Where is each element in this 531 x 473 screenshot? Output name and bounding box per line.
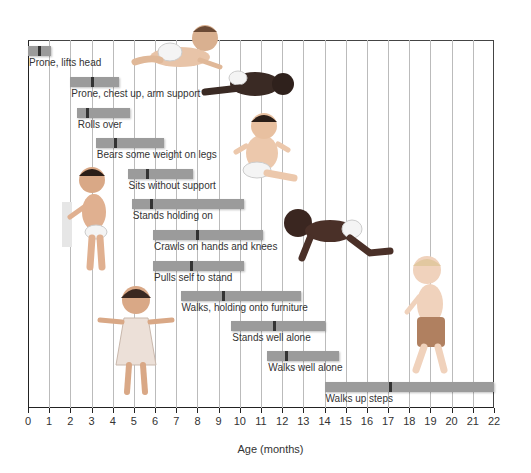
median-marker <box>150 199 153 209</box>
x-tick-label: 6 <box>145 415 165 427</box>
x-tick-label: 12 <box>272 415 292 427</box>
milestone-label: Walks up steps <box>326 393 393 404</box>
milestone-range-bar <box>132 199 244 209</box>
x-tick <box>494 408 495 413</box>
milestone-label: Bears some weight on legs <box>97 149 217 160</box>
milestone-range-bar <box>325 382 494 392</box>
x-tick-label: 22 <box>484 415 504 427</box>
motor-milestones-chart: Prone, lifts headProne, chest up, arm su… <box>0 0 531 473</box>
x-tick-label: 16 <box>357 415 377 427</box>
median-marker <box>273 321 276 331</box>
median-marker <box>222 291 225 301</box>
milestone-range-bar <box>153 261 244 271</box>
x-tick-label: 2 <box>60 415 80 427</box>
milestone-range-bar <box>70 77 119 87</box>
x-tick-label: 10 <box>230 415 250 427</box>
x-tick <box>219 408 220 413</box>
median-marker <box>285 351 288 361</box>
milestone-range-bar <box>153 230 263 240</box>
milestone-label: Crawls on hands and knees <box>154 241 277 252</box>
milestone-range-bar <box>231 321 324 331</box>
x-tick <box>473 408 474 413</box>
median-marker <box>389 382 392 392</box>
x-tick <box>92 408 93 413</box>
x-tick <box>303 408 304 413</box>
x-tick-label: 18 <box>399 415 419 427</box>
milestone-label: Sits without support <box>129 180 216 191</box>
x-tick <box>388 408 389 413</box>
milestone-range-bar <box>181 291 302 301</box>
milestone-label: Rolls over <box>78 119 122 130</box>
x-tick <box>113 408 114 413</box>
x-axis-label: Age (months) <box>0 443 531 455</box>
x-tick-label: 1 <box>39 415 59 427</box>
median-marker <box>38 46 41 56</box>
milestone-range-bar <box>77 108 130 118</box>
median-marker <box>114 138 117 148</box>
median-marker <box>196 230 199 240</box>
x-tick <box>70 408 71 413</box>
milestone-range-bar <box>28 46 51 56</box>
x-tick <box>325 408 326 413</box>
x-tick-label: 14 <box>315 415 335 427</box>
toddler-walking-illustration <box>402 252 462 377</box>
x-tick-label: 21 <box>463 415 483 427</box>
milestone-range-bar <box>96 138 164 148</box>
median-marker <box>190 261 193 271</box>
x-tick-label: 20 <box>442 415 462 427</box>
x-tick-label: 0 <box>18 415 38 427</box>
x-tick-label: 3 <box>82 415 102 427</box>
grid-line <box>49 40 50 408</box>
x-tick-label: 9 <box>209 415 229 427</box>
milestone-label: Prone, lifts head <box>29 57 101 68</box>
x-tick <box>430 408 431 413</box>
x-tick <box>28 408 29 413</box>
median-marker <box>146 169 149 179</box>
x-tick <box>176 408 177 413</box>
x-tick-label: 8 <box>187 415 207 427</box>
x-tick <box>346 408 347 413</box>
milestone-label: Stands well alone <box>232 332 310 343</box>
toddler-standing-alone-illustration <box>96 280 176 400</box>
x-tick-label: 5 <box>124 415 144 427</box>
x-tick <box>134 408 135 413</box>
x-tick-label: 13 <box>293 415 313 427</box>
x-tick <box>49 408 50 413</box>
milestone-label: Pulls self to stand <box>154 272 232 283</box>
milestone-label: Prone, chest up, arm support <box>71 88 200 99</box>
median-marker <box>86 108 89 118</box>
grid-line <box>473 40 474 408</box>
x-tick <box>409 408 410 413</box>
x-tick-label: 4 <box>103 415 123 427</box>
milestone-label: Walks well alone <box>268 362 342 373</box>
x-tick <box>452 408 453 413</box>
milestone-range-bar <box>267 351 339 361</box>
baby-crawling-illustration <box>280 203 395 265</box>
median-marker <box>91 77 94 87</box>
x-tick-label: 15 <box>336 415 356 427</box>
x-tick <box>261 408 262 413</box>
baby-prone-chest-up-illustration <box>200 62 300 107</box>
x-tick <box>282 408 283 413</box>
baby-sitting-illustration <box>232 108 302 188</box>
baby-standing-holding-on-illustration <box>62 162 117 277</box>
x-tick <box>197 408 198 413</box>
x-tick <box>155 408 156 413</box>
x-tick <box>240 408 241 413</box>
x-tick-label: 7 <box>166 415 186 427</box>
x-tick <box>367 408 368 413</box>
x-tick-label: 11 <box>251 415 271 427</box>
x-tick-label: 19 <box>420 415 440 427</box>
milestone-label: Stands holding on <box>133 210 213 221</box>
x-tick-label: 17 <box>378 415 398 427</box>
milestone-range-bar <box>128 169 194 179</box>
milestone-label: Walks, holding onto furniture <box>182 302 308 313</box>
